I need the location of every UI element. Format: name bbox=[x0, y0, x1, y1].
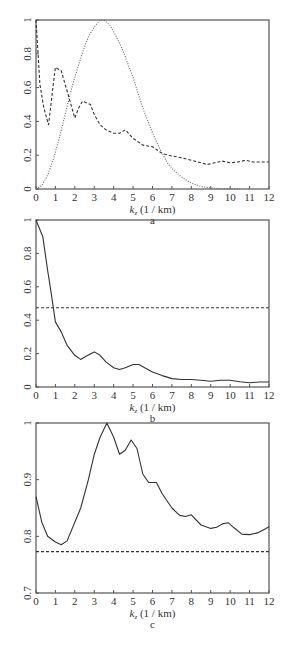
x-tick-label: 1 bbox=[53, 389, 59, 401]
x-tick-label: 12 bbox=[264, 389, 275, 401]
x-tick-label: 3 bbox=[92, 191, 98, 203]
y-tick-label: 1 bbox=[21, 217, 33, 223]
x-tick-label: 2 bbox=[72, 595, 78, 607]
chart-c: 01234567891011120.70.80.91kz (1 / km)c bbox=[21, 420, 275, 630]
x-tick-label: 11 bbox=[244, 389, 255, 401]
y-tick-label: 0.6 bbox=[21, 80, 33, 94]
x-tick-label: 10 bbox=[225, 389, 237, 401]
x-tick-label: 12 bbox=[264, 191, 275, 203]
x-tick-label: 5 bbox=[130, 595, 136, 607]
x-tick-label: 8 bbox=[189, 595, 195, 607]
plot-frame bbox=[36, 220, 269, 387]
x-tick-label: 11 bbox=[244, 595, 255, 607]
chart-a: 012345678910111200.20.40.60.81kz (1 / km… bbox=[21, 17, 275, 226]
x-tick-label: 4 bbox=[111, 191, 117, 203]
x-tick-label: 1 bbox=[53, 595, 59, 607]
x-tick-label: 7 bbox=[169, 191, 175, 203]
x-tick-label: 3 bbox=[92, 595, 98, 607]
x-tick-label: 9 bbox=[208, 389, 214, 401]
y-tick-label: 0.8 bbox=[21, 46, 33, 60]
x-tick-label: 2 bbox=[72, 191, 78, 203]
x-tick-label: 5 bbox=[130, 389, 136, 401]
x-tick-label: 0 bbox=[33, 389, 39, 401]
x-tick-label: 6 bbox=[150, 191, 156, 203]
y-tick-label: 0.4 bbox=[21, 114, 33, 128]
plot-frame bbox=[36, 423, 269, 593]
y-tick-label: 0.2 bbox=[21, 347, 33, 361]
x-tick-label: 12 bbox=[264, 595, 275, 607]
x-tick-label: 7 bbox=[169, 595, 175, 607]
y-tick-label: 1 bbox=[21, 420, 33, 426]
x-tick-label: 11 bbox=[244, 191, 255, 203]
x-tick-label: 4 bbox=[111, 389, 117, 401]
chart-figure: 012345678910111200.20.40.60.81kz (1 / km… bbox=[0, 0, 289, 648]
series-solid bbox=[36, 220, 269, 383]
x-tick-label: 0 bbox=[33, 595, 39, 607]
x-tick-label: 8 bbox=[189, 191, 195, 203]
y-tick-label: 0.2 bbox=[21, 148, 33, 162]
chart-caption: b bbox=[150, 412, 156, 424]
x-tick-label: 10 bbox=[225, 191, 237, 203]
y-tick-label: 0.6 bbox=[21, 279, 33, 293]
y-tick-label: 0.8 bbox=[21, 529, 33, 543]
chart-b: 012345678910111200.20.40.60.81kz (1 / km… bbox=[21, 217, 275, 424]
x-tick-label: 9 bbox=[208, 191, 214, 203]
y-tick-label: 0.7 bbox=[21, 586, 33, 600]
y-tick-label: 0 bbox=[21, 186, 33, 192]
y-tick-label: 0 bbox=[21, 384, 33, 390]
x-tick-label: 8 bbox=[189, 389, 195, 401]
x-tick-label: 1 bbox=[53, 191, 59, 203]
x-tick-label: 0 bbox=[33, 191, 39, 203]
x-tick-label: 6 bbox=[150, 595, 156, 607]
series-dashed bbox=[36, 20, 269, 165]
y-tick-label: 0.8 bbox=[21, 246, 33, 260]
x-tick-label: 2 bbox=[72, 389, 78, 401]
x-tick-label: 3 bbox=[92, 389, 98, 401]
series-solid bbox=[36, 423, 269, 545]
x-tick-label: 5 bbox=[130, 191, 136, 203]
y-tick-label: 0.4 bbox=[21, 313, 33, 327]
x-tick-label: 7 bbox=[169, 389, 175, 401]
x-tick-label: 10 bbox=[225, 595, 237, 607]
x-tick-label: 4 bbox=[111, 595, 117, 607]
x-tick-label: 6 bbox=[150, 389, 156, 401]
x-tick-label: 9 bbox=[208, 595, 214, 607]
y-tick-label: 1 bbox=[21, 17, 33, 23]
chart-caption: c bbox=[150, 618, 155, 630]
y-tick-label: 0.9 bbox=[21, 472, 33, 486]
